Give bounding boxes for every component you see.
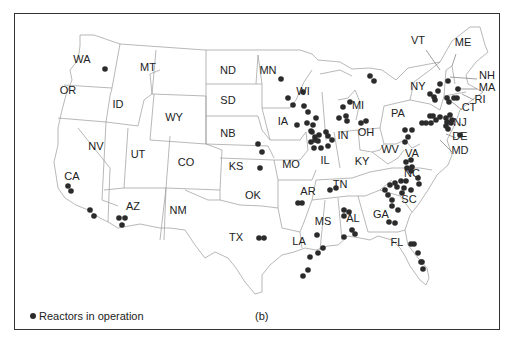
state-label-nm: NM [169, 204, 186, 216]
reactor-dot [363, 118, 369, 124]
state-label-nv: NV [88, 140, 104, 152]
reactor-dot [325, 143, 331, 149]
state-label-nd: ND [220, 64, 236, 76]
reactor-dot [313, 115, 319, 121]
reactor-dot [341, 213, 347, 219]
reactor-dot [446, 99, 452, 105]
reactor-dot [455, 86, 461, 92]
reactor-dot [352, 231, 358, 237]
reactor-dot [371, 78, 377, 84]
state-label-ar: AR [300, 185, 315, 197]
reactor-dot [416, 181, 422, 187]
state-label-la: LA [292, 235, 306, 247]
reactor-dot [119, 222, 125, 228]
reactor-dot [409, 164, 415, 170]
reactor-dot [447, 112, 453, 118]
reactor-dot [347, 99, 353, 105]
reactor-dot [445, 78, 451, 84]
reactor-dot [408, 187, 414, 193]
reactor-dot [255, 141, 261, 147]
state-label-fl: FL [391, 236, 404, 248]
reactor-dot [333, 185, 339, 191]
reactor-dot [404, 165, 410, 171]
reactor-dot [309, 129, 315, 135]
state-label-az: AZ [126, 200, 140, 212]
reactor-dot [358, 120, 364, 126]
state-label-nb: NB [220, 127, 235, 139]
reactor-dot [314, 232, 320, 238]
reactor-dot [343, 113, 349, 119]
reactor-dot [457, 132, 463, 138]
legend-label: Reactors in operation [39, 310, 144, 322]
reactor-dot [341, 207, 347, 213]
reactor-dot [311, 145, 317, 151]
state-label-ny: NY [410, 80, 426, 92]
state-label-wy: WY [165, 111, 183, 123]
reactor-dot [285, 95, 291, 101]
reactor-dot [405, 134, 411, 140]
reactor-dot [300, 273, 306, 279]
reactor-dot [315, 138, 321, 144]
state-label-co: CO [178, 156, 195, 168]
reactor-dot [341, 234, 347, 240]
reactor-dot [415, 250, 421, 256]
state-label-id: ID [113, 98, 124, 110]
state-label-me: ME [455, 36, 472, 48]
reactor-dot [346, 209, 352, 215]
reactor-dot [403, 159, 409, 165]
state-label-sd: SD [220, 94, 235, 106]
reactor-dot [392, 220, 398, 226]
reactor-dot [116, 215, 122, 221]
reactor-dot [91, 213, 97, 219]
state-label-or: OR [60, 84, 77, 96]
reactor-dot [409, 127, 415, 133]
reactor-dot [445, 126, 451, 132]
state-label-wa: WA [73, 53, 91, 65]
reactor-dot [387, 182, 393, 188]
state-label-wv: WV [381, 143, 399, 155]
reactor-dot [398, 178, 404, 184]
state-label-nj: NJ [453, 116, 466, 128]
reactor-dot [290, 102, 296, 108]
reactor-dot [300, 89, 306, 95]
reactor-dot [327, 187, 333, 193]
reactor-dot [315, 250, 321, 256]
reactor-dot [437, 81, 443, 87]
panel-label: (b) [255, 310, 268, 322]
reactor-dot [403, 178, 409, 184]
state-label-mo: MO [282, 158, 300, 170]
reactor-marker-icon [30, 313, 36, 319]
state-label-ca: CA [64, 170, 80, 182]
reactor-dot [294, 122, 300, 128]
reactor-dot [367, 73, 373, 79]
state-label-in: IN [338, 129, 349, 141]
reactor-dot [344, 118, 350, 124]
reactor-dot [402, 127, 408, 133]
reactor-dot [423, 120, 429, 126]
state-label-ky: KY [355, 155, 370, 167]
legend: Reactors in operation [30, 310, 144, 322]
reactor-dot [415, 175, 421, 181]
reactor-dot [102, 66, 108, 72]
reactor-dot [432, 97, 438, 103]
reactor-dot [386, 219, 392, 225]
reactor-dot [385, 192, 391, 198]
state-label-va: VA [405, 147, 420, 159]
reactor-dot [68, 188, 74, 194]
reactor-dot [437, 114, 443, 120]
reactor-dot [382, 187, 388, 193]
reactor-dot [278, 76, 284, 82]
state-label-md: MD [451, 144, 468, 156]
reactor-dot [389, 197, 395, 203]
reactor-dot [257, 165, 263, 171]
state-label-nh: NH [479, 69, 495, 81]
reactor-dot [428, 120, 434, 126]
state-label-vt: VT [411, 34, 425, 46]
reactor-dot [389, 203, 395, 209]
reactor-dot [399, 190, 405, 196]
reactor-dot [320, 245, 326, 251]
state-label-ct: CT [462, 101, 477, 113]
state-label-ms: MS [315, 215, 332, 227]
reactor-dot [295, 200, 301, 206]
state-label-pa: PA [391, 107, 406, 119]
